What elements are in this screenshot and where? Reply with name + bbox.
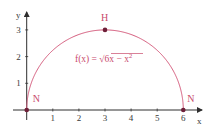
formula-prefix: f(x) = xyxy=(75,54,99,65)
function-graph: x y 123456 123 NHN f(x) = √6x − x2 xyxy=(0,0,216,136)
maximum-point xyxy=(103,28,108,33)
y-tick-label: 3 xyxy=(16,25,21,35)
zero-point xyxy=(181,108,186,113)
x-tick-label: 3 xyxy=(103,113,108,123)
x-axis-label: x xyxy=(197,116,202,126)
maximum-point-label: H xyxy=(101,12,108,23)
y-axis-label: y xyxy=(16,10,21,20)
x-tick-label: 1 xyxy=(51,113,56,123)
formula-label: f(x) = √6x − x2 xyxy=(75,52,132,65)
x-tick-label: 6 xyxy=(181,113,186,123)
y-tick-label: 1 xyxy=(16,78,21,88)
y-tick-label: 2 xyxy=(16,52,21,62)
formula-radicand: 6x − x xyxy=(105,54,130,64)
x-tick-label: 5 xyxy=(155,113,160,123)
function-curve xyxy=(27,30,184,110)
x-tick-label: 4 xyxy=(129,113,134,123)
zero-point xyxy=(24,108,29,113)
formula-exponent: 2 xyxy=(129,52,132,59)
zero-point-label: N xyxy=(187,93,194,104)
zero-point-label: N xyxy=(33,93,40,104)
x-ticks: 123456 xyxy=(51,109,187,124)
x-tick-label: 2 xyxy=(77,113,82,123)
